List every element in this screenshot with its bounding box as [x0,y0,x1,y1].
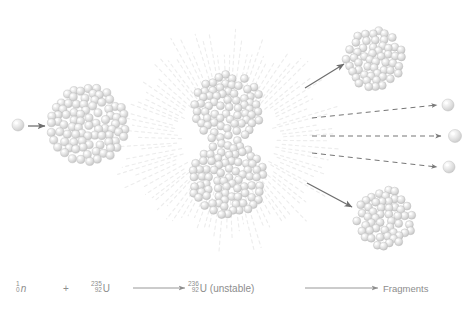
energy-release-rays [113,29,339,253]
arrow-released-neutron-3 [312,153,437,167]
arrow-released-neutron-1 [312,105,437,118]
neutron-atomic-number: 0 [16,287,20,294]
uranium235-atomic-number: 92 [91,287,102,294]
neutron-symbol: n [21,283,27,294]
equation-reactant-neutron: 1 0 n [16,278,26,296]
uranium235-isotope-numbers: 235 92 [91,281,102,294]
uranium235-symbol: U [103,283,110,294]
equation-reactant-uranium: 235 92 U [91,278,110,296]
equation-products-label: Fragments [383,283,428,294]
equation-plus-sign: + [63,283,69,294]
nuclei-layer [12,27,462,250]
arrow-fragment-top [305,64,344,88]
uranium236-symbol: U (unstable) [200,283,254,294]
neutron-isotope-numbers: 1 0 [16,281,20,294]
diagram-canvas [0,0,466,312]
uranium236-atomic-number: 92 [188,287,199,294]
fission-diagram: 1 0 n + 235 92 U 236 92 U (unstable) Fra… [0,0,466,312]
uranium236-isotope-numbers: 236 92 [188,281,199,294]
equation-intermediate-uranium: 236 92 U (unstable) [188,278,254,296]
arrow-fragment-bottom [307,183,352,207]
